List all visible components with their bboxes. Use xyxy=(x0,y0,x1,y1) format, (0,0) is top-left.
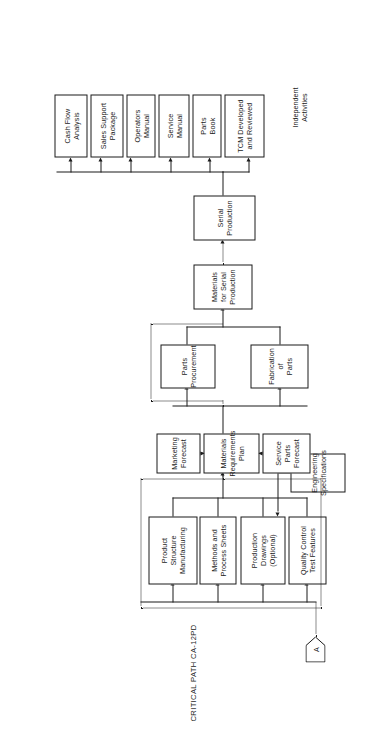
diagram-title: CRITICAL PATH CA-12PD xyxy=(188,624,197,721)
node-parts-procurement: Parts Procurement xyxy=(160,344,215,388)
node-parts-book: Parts Book xyxy=(192,94,221,157)
out-line-methods xyxy=(217,497,218,516)
dropper-parts-book xyxy=(209,160,210,172)
arrow-into-operators-manual xyxy=(128,157,132,161)
critical-path-dotted-top xyxy=(140,478,141,608)
arrow-into-sales-support-package xyxy=(98,157,102,161)
node-tcm-developed-and-reviewed: TCM Developed and Reviewed xyxy=(224,94,264,157)
arrow-into-mrp-from-marketing xyxy=(200,452,204,456)
node-production-drawings-optional: Production Drawings (Optional) xyxy=(240,516,285,584)
critical-path-dotted-sourcing-left xyxy=(150,400,222,401)
critical-path-dotted-sourcing-top xyxy=(150,323,151,401)
offpage-connector-label: A xyxy=(311,647,320,652)
arrow-into-quality-control-from-engineering-spec xyxy=(275,512,279,516)
arrow-into-cash-flow-analysis xyxy=(68,157,72,161)
node-materials-for-serial-production: Materials for Serial Production xyxy=(193,264,252,309)
parts-procurement-out-line xyxy=(186,326,187,344)
critical-path-dotted-sourcing-right xyxy=(150,323,222,324)
arrow-into-mrp-from-service-parts xyxy=(258,452,262,456)
feeder-line-quality-control xyxy=(306,584,307,602)
feeder-line-production-drawings xyxy=(262,584,263,602)
node-product-structure-manufacturing: Product Structure Manufacturing xyxy=(148,516,197,584)
mrp-to-fabrication-line xyxy=(279,388,280,406)
materials-to-serial-dotted-link xyxy=(222,242,223,264)
out-line-quality-control xyxy=(306,497,307,516)
base-input-bus xyxy=(140,601,316,602)
base-output-bus xyxy=(172,497,307,498)
fabrication-out-line xyxy=(279,326,280,344)
node-service-manual: Service Manual xyxy=(158,94,189,157)
critical-path-dotted-right-lower xyxy=(222,478,320,479)
critical-path-dotted-left xyxy=(140,607,320,608)
node-marketing-forecast: Marketing Forecast xyxy=(156,433,200,473)
independent-activities-bus xyxy=(56,171,223,172)
node-operators-manual: Operators Manual xyxy=(126,94,155,157)
independent-activities-bus-lower xyxy=(222,171,249,172)
node-materials-requirements-plan: Materials Requirements Plan xyxy=(203,433,259,473)
feeder-line-methods xyxy=(217,584,218,602)
independent-activities-label: Independent Activities xyxy=(290,67,308,147)
node-methods-and-process-sheets: Methods and Process Sheets xyxy=(199,516,236,584)
critical-path-dotted-bottom xyxy=(320,478,321,608)
node-serial-production: Serial Production xyxy=(193,195,255,240)
mrp-output-trunk xyxy=(222,405,223,433)
independent-activities-feed xyxy=(222,171,223,195)
dropper-service-manual xyxy=(170,160,171,172)
sourcing-merge-bus xyxy=(186,326,280,327)
arrow-into-tcm-developed xyxy=(246,157,250,161)
dropper-sales-support-package xyxy=(100,160,101,172)
arrow-into-parts-book xyxy=(207,157,211,161)
critical-path-dotted-into-mrp xyxy=(222,473,223,479)
feeder-line-product-structure xyxy=(172,584,173,602)
node-fabrication-of-parts: Fabrication of Parts xyxy=(250,344,308,388)
offpage-connector-a: A xyxy=(305,636,325,662)
mrp-to-parts-procurement-line xyxy=(186,388,187,406)
node-service-parts-forecast: Service Parts Forecast xyxy=(262,433,310,473)
mrp-split-bus xyxy=(172,405,307,406)
critical-path-dotted-sourcing-entry xyxy=(222,400,223,406)
out-line-production-drawings xyxy=(262,497,263,516)
dropper-cash-flow-analysis xyxy=(70,160,71,172)
dropper-tcm-developed xyxy=(248,160,249,172)
node-sales-support-package: Sales Support Package xyxy=(90,94,123,157)
node-cash-flow-analysis: Cash Flow Analysis xyxy=(54,94,87,157)
out-line-product-structure xyxy=(172,497,173,516)
critical-path-dotted-right-upper xyxy=(140,478,222,479)
arrow-into-service-manual xyxy=(168,157,172,161)
diagram-canvas: CRITICAL PATH CA-12PD A Product Structur… xyxy=(0,0,383,739)
dropper-operators-manual xyxy=(130,160,131,172)
